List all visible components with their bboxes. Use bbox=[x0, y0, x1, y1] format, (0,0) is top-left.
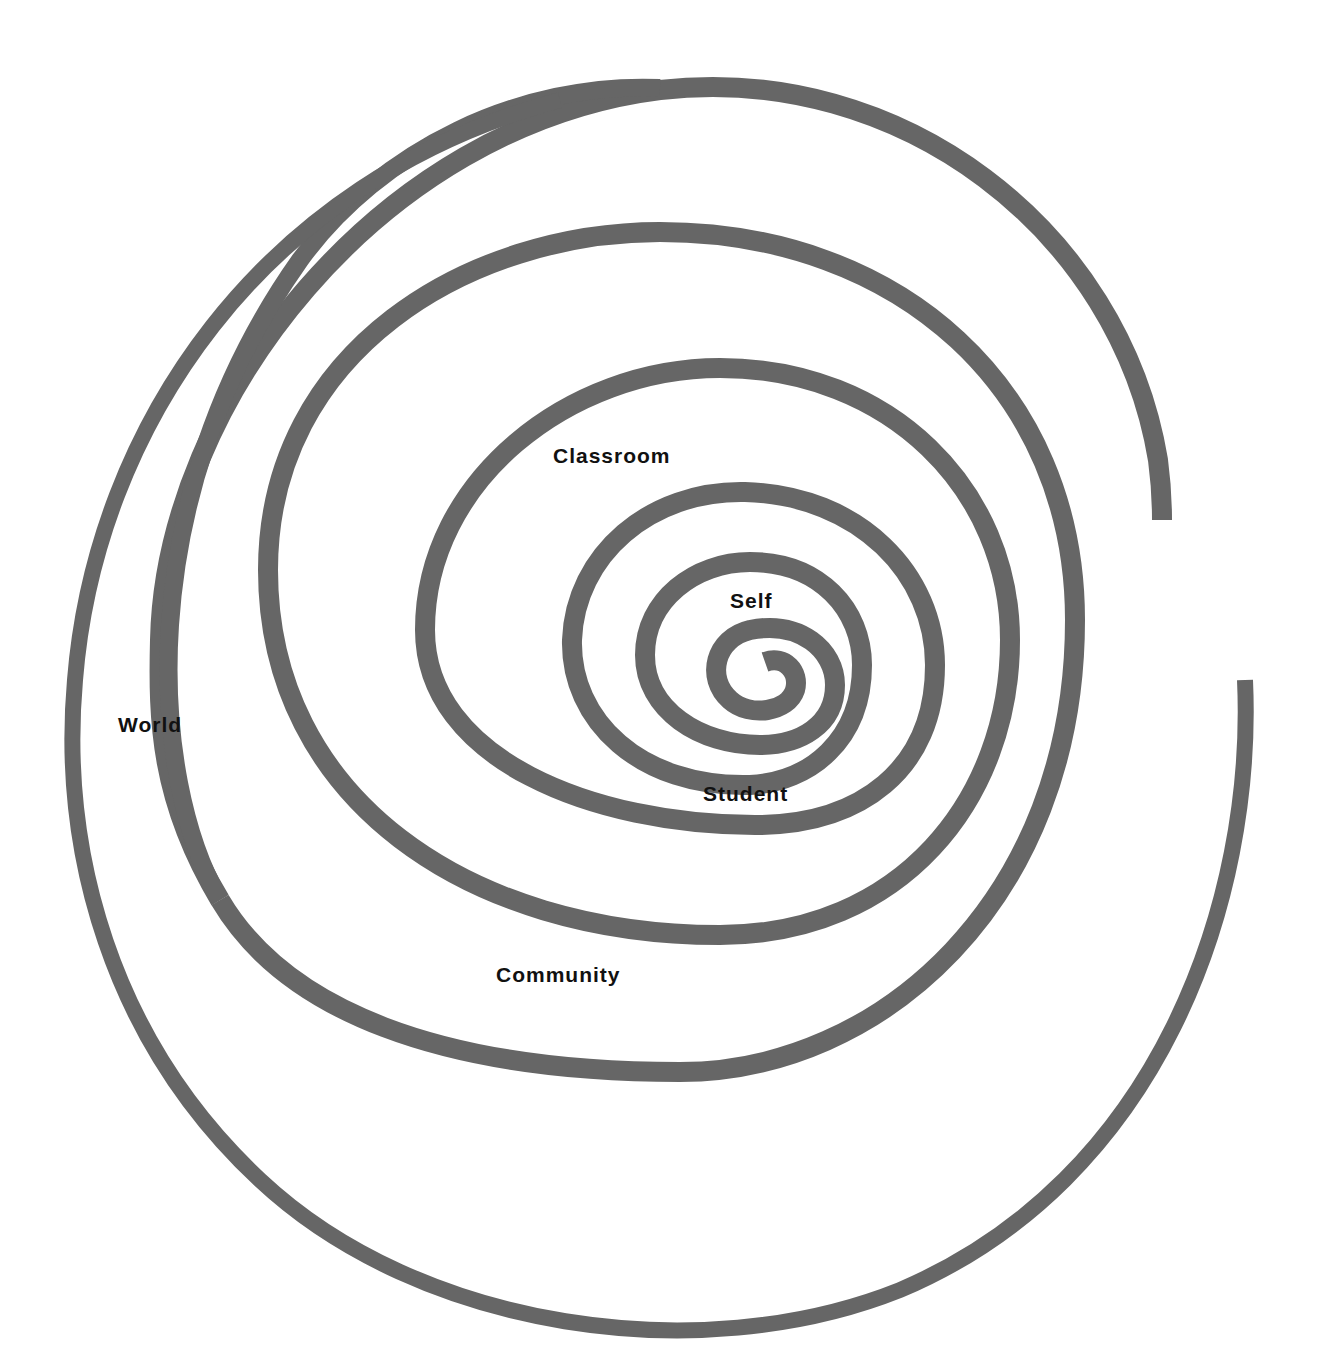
label-student: Student bbox=[703, 782, 788, 806]
label-classroom: Classroom bbox=[553, 444, 671, 468]
label-community: Community bbox=[496, 963, 621, 987]
spiral-graphic bbox=[0, 0, 1324, 1364]
spiral-path-outermost bbox=[169, 88, 660, 900]
label-world: World bbox=[118, 713, 182, 737]
label-self: Self bbox=[730, 589, 773, 613]
spiral-path bbox=[220, 232, 1075, 1072]
